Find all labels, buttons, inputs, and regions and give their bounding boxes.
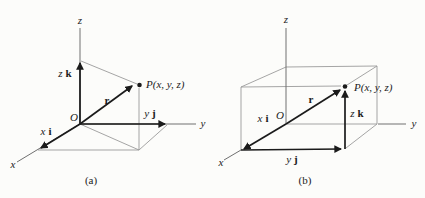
vector-xi-b [244,124,286,149]
r-vector-label-a: r [105,95,110,106]
caption-a: (a) [85,175,97,186]
edge-ztip-to-p-a [81,61,137,84]
x-axis-label-b: x [219,157,224,168]
yj-component-label-b: yj [286,154,298,165]
y-axis-label-b: y [412,118,417,129]
xi-scalar-b: x [258,112,263,124]
origin-label-b: O [276,110,284,121]
edge-q-to-yaxis-a [139,125,167,150]
xi-scalar-a: x [41,125,46,137]
edge-atop-otop-b [241,67,286,87]
yj-component-label-a: yj [144,108,156,119]
diagram-canvas [0,0,425,198]
yj-scalar-b: y [286,153,291,165]
zk-scalar-b: z [350,107,354,119]
x-axis-b [224,150,241,160]
zk-component-label-a: zk [58,68,71,79]
z-axis-label-a: z [78,15,82,26]
vector-yj-b [241,149,341,150]
z-axis-label-b: z [284,14,288,25]
origin-label-a: O [70,112,78,123]
i-unit-vector-b: i [265,112,268,124]
point-p-label-b: P(x, y, z) [354,82,392,93]
j-unit-vector-a: j [152,107,156,119]
figure-position-vector: z zk P(x, y, z) r O yj y xi x (a) z P(x,… [0,0,425,198]
caption-b: (b) [299,175,312,186]
k-unit-vector-a: k [66,67,72,79]
point-p-dot-b [343,84,348,89]
j-unit-vector-b: j [294,153,298,165]
point-p-label-a: P(x, y, z) [146,79,184,90]
y-axis-label-a: y [201,118,206,129]
zk-scalar-a: z [58,67,62,79]
r-vector-label-b: r [309,94,314,105]
edge-otop-ctop-b [286,66,377,67]
x-axis-label-a: x [11,159,16,170]
xi-component-label-b: xi [258,113,269,124]
xi-component-label-a: xi [41,126,52,137]
yj-scalar-a: y [144,107,149,119]
edge-o-to-q-a [80,124,139,150]
panel-b-axes [224,28,406,160]
point-p-dot-a [137,83,142,88]
i-unit-vector-a: i [48,125,51,137]
edge-atop-p-b [241,86,341,87]
k-unit-vector-b: k [358,107,364,119]
edge-c-d-b [346,124,377,148]
zk-component-label-b: zk [350,108,363,119]
